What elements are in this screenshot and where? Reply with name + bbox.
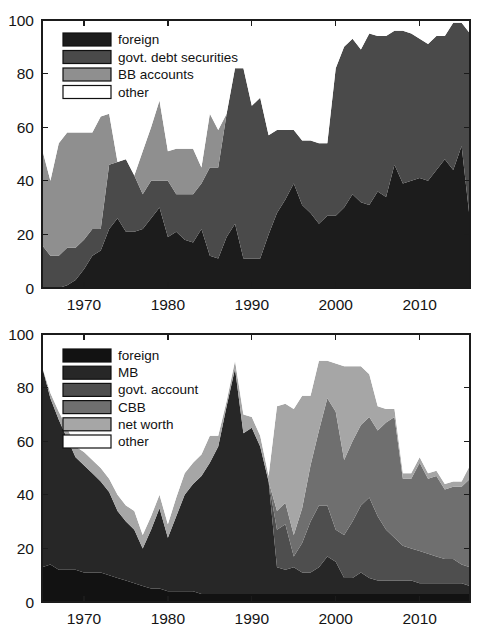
y-tick-label: 80 (17, 379, 35, 396)
legend-swatch-net-worth (63, 418, 111, 431)
legend-label-cbb: CBB (118, 400, 146, 415)
y-tick-label: 40 (17, 172, 35, 189)
legend-label-other: other (118, 434, 149, 449)
x-tick-label: 1980 (151, 296, 186, 313)
y-tick-label: 20 (17, 226, 35, 243)
legend-swatch-foreign (63, 349, 111, 362)
y-tick-label: 100 (8, 326, 34, 343)
legend-label-govt-debt-securities: govt. debt securities (118, 50, 238, 65)
legend-swatch-govt-debt-securities (63, 51, 111, 64)
x-tick-label: 1990 (235, 610, 270, 627)
y-tick-label: 20 (17, 540, 35, 557)
legend-label-foreign: foreign (118, 32, 159, 47)
chart-panel-top: 02040608010019701980199020002010foreigng… (0, 0, 486, 314)
y-tick-label: 40 (17, 486, 35, 503)
legend-label-foreign: foreign (118, 348, 159, 363)
x-tick-label: 1980 (151, 610, 186, 627)
stacked-area-chart-bottom: 02040608010019701980199020002010foreignM… (0, 314, 486, 628)
y-tick-label: 60 (17, 119, 35, 136)
legend-label-bb-accounts: BB accounts (118, 67, 194, 82)
y-tick-label: 0 (25, 594, 34, 611)
chart-panel-bottom: 02040608010019701980199020002010foreignM… (0, 314, 486, 628)
legend-label-net-worth: net worth (118, 417, 174, 432)
x-tick-label: 2000 (318, 296, 353, 313)
y-tick-label: 0 (25, 280, 34, 297)
x-tick-label: 1970 (67, 296, 102, 313)
legend-label-other: other (118, 85, 149, 100)
y-tick-label: 60 (17, 433, 35, 450)
legend-swatch-cbb (63, 401, 111, 414)
figure-container: 02040608010019701980199020002010foreigng… (0, 0, 486, 628)
legend-swatch-bb-accounts (63, 68, 111, 81)
x-tick-label: 1970 (67, 610, 102, 627)
legend-swatch-govt-account (63, 383, 111, 396)
stacked-area-chart-top: 02040608010019701980199020002010foreigng… (0, 0, 486, 314)
legend-swatch-mb (63, 366, 111, 379)
legend-swatch-other (63, 435, 111, 448)
x-tick-label: 2000 (318, 610, 353, 627)
legend-label-mb: MB (118, 365, 138, 380)
legend-label-govt-account: govt. account (118, 382, 199, 397)
legend-swatch-foreign (63, 33, 111, 46)
x-tick-label: 2010 (402, 610, 437, 627)
legend-swatch-other (63, 86, 111, 99)
x-tick-label: 2010 (402, 296, 437, 313)
y-tick-label: 100 (8, 12, 34, 29)
x-tick-label: 1990 (235, 296, 270, 313)
y-tick-label: 80 (17, 65, 35, 82)
